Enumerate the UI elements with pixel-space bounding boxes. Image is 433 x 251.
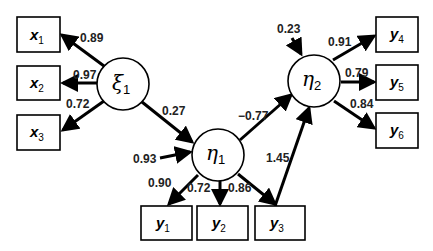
coef-xi1-eta1: 0.27 <box>162 104 186 118</box>
node-eta1: η1 <box>192 129 244 181</box>
coef-xi1-x1: 0.89 <box>80 31 104 45</box>
coef-xi1-x3: 0.72 <box>66 97 90 111</box>
arrow-error-eta2 <box>292 38 301 54</box>
coef-error-eta1: 0.93 <box>133 152 157 166</box>
node-y4: y4 <box>376 17 418 52</box>
node-y1: y1 <box>141 206 192 240</box>
coef-eta2-y4: 0.91 <box>328 35 352 49</box>
coef-error-eta2: 0.23 <box>277 22 301 36</box>
node-y6: y6 <box>376 113 418 148</box>
coef-y3-eta2: 1.45 <box>266 151 290 165</box>
node-x1: x1 <box>17 17 60 52</box>
node-xi1: ξ1 <box>97 58 149 110</box>
node-y5: y5 <box>376 65 418 100</box>
coef-xi1-x2: 0.97 <box>73 68 97 82</box>
node-x2: x2 <box>17 66 60 100</box>
coef-eta1-y1: 0.90 <box>148 176 172 190</box>
arrow-error-eta1 <box>160 152 190 158</box>
coef-eta1-y3: 0.86 <box>228 181 252 195</box>
node-x3: x3 <box>17 115 60 150</box>
coef-eta1-y2: 0.72 <box>187 181 211 195</box>
node-eta2: η2 <box>288 55 340 107</box>
node-y3: y3 <box>255 206 305 240</box>
coef-eta2-y5: 0.79 <box>345 66 369 80</box>
coef-eta1-eta2: −0.77 <box>238 109 269 123</box>
node-y2: y2 <box>197 206 248 240</box>
coef-eta2-y6: 0.84 <box>350 97 374 111</box>
sem-path-diagram: x1 x2 x3 y1 y2 y3 y4 y5 y6 ξ1 η1 <box>0 0 433 251</box>
